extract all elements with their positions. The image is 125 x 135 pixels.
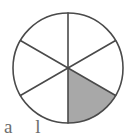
pie-sector-shaded bbox=[68, 68, 116, 123]
figure-container: a l bbox=[0, 0, 125, 135]
fraction-circle-diagram bbox=[0, 0, 125, 135]
figure-caption: a l bbox=[4, 117, 49, 135]
